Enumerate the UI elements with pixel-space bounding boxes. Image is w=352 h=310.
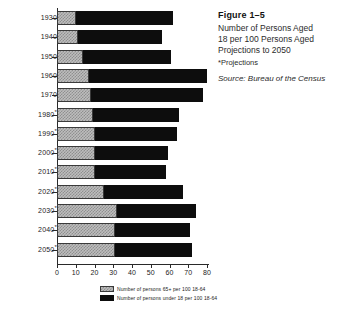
caption-source: Source: Bureau of the Census	[218, 74, 350, 83]
bar-segment-under18	[83, 50, 171, 64]
y-axis-tick	[52, 153, 57, 154]
stacked-bar	[57, 223, 190, 237]
x-axis-tick-label: 30	[103, 269, 123, 276]
y-axis-label: 1940	[5, 33, 57, 40]
y-axis-tick	[52, 250, 57, 251]
y-axis-tick	[52, 192, 57, 193]
legend-item: Number of persons under 18 per 100 18-64	[100, 294, 212, 302]
stacked-bar	[57, 165, 166, 179]
stacked-bar	[57, 243, 192, 257]
bar-segment-65plus	[57, 108, 93, 122]
x-axis-tick-label: 20	[85, 269, 105, 276]
bar-row	[57, 185, 207, 199]
bar-row	[57, 146, 207, 160]
x-axis-tick	[95, 264, 96, 268]
stacked-bar	[57, 88, 203, 102]
bar-segment-65plus	[57, 185, 104, 199]
x-axis-tick	[113, 264, 114, 268]
chart-legend: Number of persons 65+ per 100 18-64 Numb…	[100, 285, 212, 303]
x-axis-tick-label: 0	[47, 269, 67, 276]
figure-caption: Figure 1–5 Number of Persons Aged 18 per…	[218, 10, 350, 83]
y-axis-tick	[52, 172, 57, 173]
stacked-bar	[57, 204, 196, 218]
bar-segment-65plus	[57, 146, 95, 160]
y-axis-tick	[52, 115, 57, 116]
bar-row	[57, 108, 207, 122]
stacked-bar	[57, 108, 179, 122]
y-axis-label: 1990*	[5, 130, 57, 137]
stacked-bar	[57, 127, 177, 141]
bar-segment-65plus	[57, 11, 76, 25]
y-axis-label: 2040*	[5, 226, 57, 233]
bar-segment-65plus	[57, 50, 83, 64]
x-axis-tick-label: 10	[66, 269, 86, 276]
figure-number: Figure 1–5	[218, 10, 350, 20]
bar-row	[57, 30, 207, 44]
bar-row	[57, 223, 207, 237]
bar-segment-under18	[93, 108, 179, 122]
stacked-bar	[57, 185, 183, 199]
x-axis-tick	[170, 264, 171, 268]
x-axis-tick	[76, 264, 77, 268]
legend-label-65plus: Number of persons 65+ per 100 18-64	[117, 286, 205, 292]
bar-segment-under18	[95, 165, 166, 179]
bar-row	[57, 11, 207, 25]
x-axis-tick-label: 60	[160, 269, 180, 276]
legend-swatch-under18	[100, 295, 114, 301]
bar-segment-65plus	[57, 204, 117, 218]
bar-row	[57, 127, 207, 141]
bar-segment-under18	[115, 243, 192, 257]
bar-segment-65plus	[57, 69, 89, 83]
y-axis-tick	[52, 211, 57, 212]
y-axis-tick	[52, 76, 57, 77]
bar-row	[57, 50, 207, 64]
bar-segment-under18	[76, 11, 174, 25]
y-axis-label: 1950	[5, 53, 57, 60]
x-axis-tick	[151, 264, 152, 268]
y-axis-label: 1960	[5, 72, 57, 79]
chart-panel: 01020304050607080 Number of persons 65+ …	[0, 0, 215, 310]
bar-row	[57, 243, 207, 257]
y-axis-label: 2010*	[5, 168, 57, 175]
x-axis-tick	[132, 264, 133, 268]
bar-segment-under18	[95, 127, 178, 141]
y-axis-tick	[52, 95, 57, 96]
y-axis-label: 1930	[5, 14, 57, 21]
bar-row	[57, 88, 207, 102]
stacked-bar	[57, 30, 162, 44]
bar-segment-65plus	[57, 127, 95, 141]
y-axis-tick	[52, 134, 57, 135]
bar-segment-65plus	[57, 223, 115, 237]
legend-label-under18: Number of persons under 18 per 100 18-64	[117, 295, 217, 301]
stacked-bar	[57, 146, 168, 160]
caption-line-2: 18 per 100 Persons Aged	[218, 34, 350, 45]
legend-swatch-65plus	[100, 286, 114, 292]
x-axis-tick	[207, 264, 208, 268]
stacked-bar	[57, 50, 171, 64]
y-axis-label: 2050*	[5, 246, 57, 253]
y-axis-tick	[52, 18, 57, 19]
y-axis-tick	[52, 230, 57, 231]
legend-item: Number of persons 65+ per 100 18-64	[100, 285, 212, 293]
y-axis-tick	[52, 57, 57, 58]
stacked-bar	[57, 69, 207, 83]
x-axis-line	[57, 264, 209, 265]
caption-line-1: Number of Persons Aged	[218, 23, 350, 34]
bar-segment-under18	[78, 30, 162, 44]
bar-plot-area	[57, 8, 207, 260]
bar-segment-65plus	[57, 88, 91, 102]
bar-segment-under18	[104, 185, 183, 199]
bar-segment-under18	[117, 204, 196, 218]
bar-segment-under18	[91, 88, 204, 102]
bar-segment-under18	[115, 223, 190, 237]
bar-segment-65plus	[57, 30, 78, 44]
bar-row	[57, 204, 207, 218]
bar-segment-under18	[89, 69, 207, 83]
x-axis-tick-label: 50	[141, 269, 161, 276]
bar-segment-65plus	[57, 243, 115, 257]
x-axis-tick	[188, 264, 189, 268]
y-axis-tick	[52, 37, 57, 38]
y-axis-label: 1980*	[5, 111, 57, 118]
figure-root: 01020304050607080 Number of persons 65+ …	[0, 0, 352, 310]
x-axis-tick-label: 80	[197, 269, 217, 276]
